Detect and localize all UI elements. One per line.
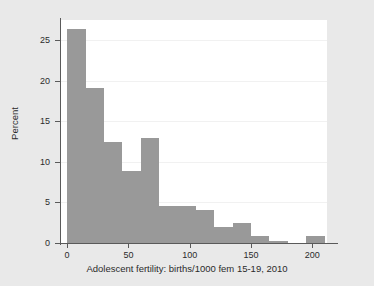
histogram-bar: [196, 210, 214, 243]
histogram-bar: [306, 236, 324, 243]
plot-area: [61, 20, 327, 243]
x-tick-mark: [67, 243, 68, 248]
histogram-bar: [67, 29, 85, 243]
y-tick-label: 10: [40, 158, 50, 167]
y-tick-mark: [55, 162, 60, 163]
x-tick-label: 0: [65, 251, 70, 260]
x-axis-line: [55, 243, 338, 244]
y-tick-mark: [55, 121, 60, 122]
histogram-chart: 0510152025 050100150200 Percent Adolesce…: [0, 0, 374, 286]
y-axis-title: Percent: [9, 94, 20, 154]
x-tick-mark: [312, 243, 313, 248]
y-tick-mark: [55, 202, 60, 203]
x-tick-label: 50: [123, 251, 133, 260]
histogram-bar: [177, 206, 195, 243]
y-tick-mark: [55, 243, 60, 244]
y-tick-label: 0: [45, 239, 50, 248]
histogram-bar: [86, 88, 104, 243]
histogram-bar: [104, 142, 122, 243]
y-tick-label: 5: [45, 198, 50, 207]
x-tick-mark: [190, 243, 191, 248]
y-tick-mark: [55, 40, 60, 41]
histogram-bar: [214, 227, 232, 243]
x-tick-label: 200: [305, 251, 320, 260]
x-tick-label: 100: [182, 251, 197, 260]
y-tick-label: 25: [40, 36, 50, 45]
x-tick-mark: [128, 243, 129, 248]
x-tick-mark: [251, 243, 252, 248]
y-tick-mark: [55, 81, 60, 82]
y-axis-line: [60, 18, 61, 245]
x-axis-title: Adolescent fertility: births/1000 fem 15…: [0, 263, 374, 274]
y-tick-label: 15: [40, 117, 50, 126]
bars-layer: [61, 20, 327, 243]
histogram-bar: [159, 206, 177, 243]
x-tick-label: 150: [243, 251, 258, 260]
histogram-bar: [251, 236, 269, 243]
histogram-bar: [122, 171, 140, 243]
y-tick-label: 20: [40, 77, 50, 86]
histogram-bar: [141, 138, 159, 243]
histogram-bar: [233, 223, 251, 243]
